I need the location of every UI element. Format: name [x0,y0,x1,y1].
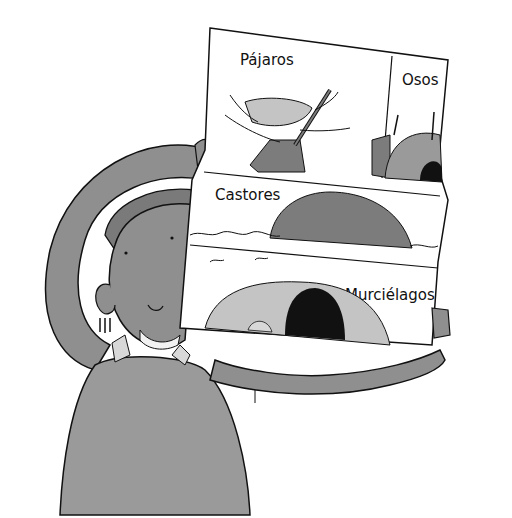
eye-left [124,251,127,254]
right-arm [210,350,445,394]
panel-label-osos: Osos [402,71,439,89]
eye-right [170,236,173,239]
panel-label-pajaros: Pájaros [240,51,294,69]
right-hand [432,308,450,338]
panel-label-castores: Castores [215,186,281,204]
poster: Pájaros Osos Castores Murcié [180,28,448,345]
illustration: Pájaros Osos Castores Murcié [0,0,512,518]
